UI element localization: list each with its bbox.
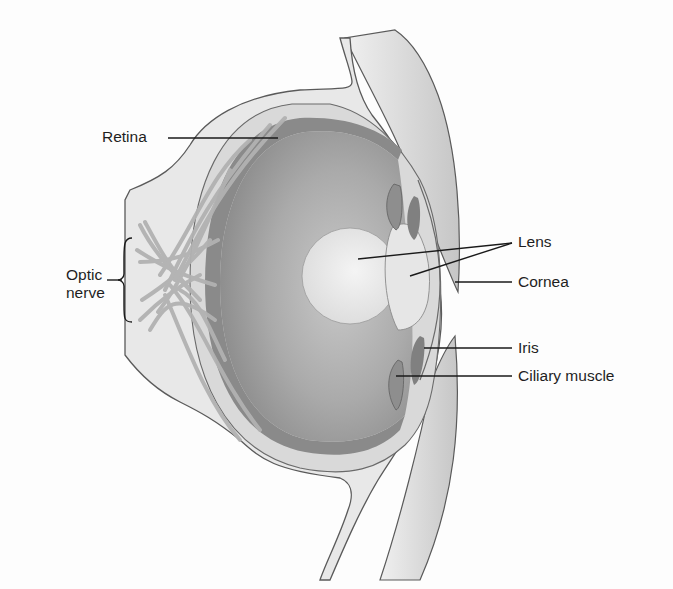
label-optic-nerve-line2: nerve [66, 284, 105, 302]
label-lens: Lens [518, 233, 552, 251]
label-retina: Retina [102, 128, 147, 146]
label-optic-nerve-line1: Optic [66, 266, 102, 284]
label-iris: Iris [518, 339, 539, 357]
label-ciliary-muscle: Ciliary muscle [518, 367, 614, 385]
lens-body [302, 228, 398, 324]
label-cornea: Cornea [518, 273, 569, 291]
eye-diagram: Retina Optic nerve Lens Cornea Iris Cili… [0, 0, 673, 589]
